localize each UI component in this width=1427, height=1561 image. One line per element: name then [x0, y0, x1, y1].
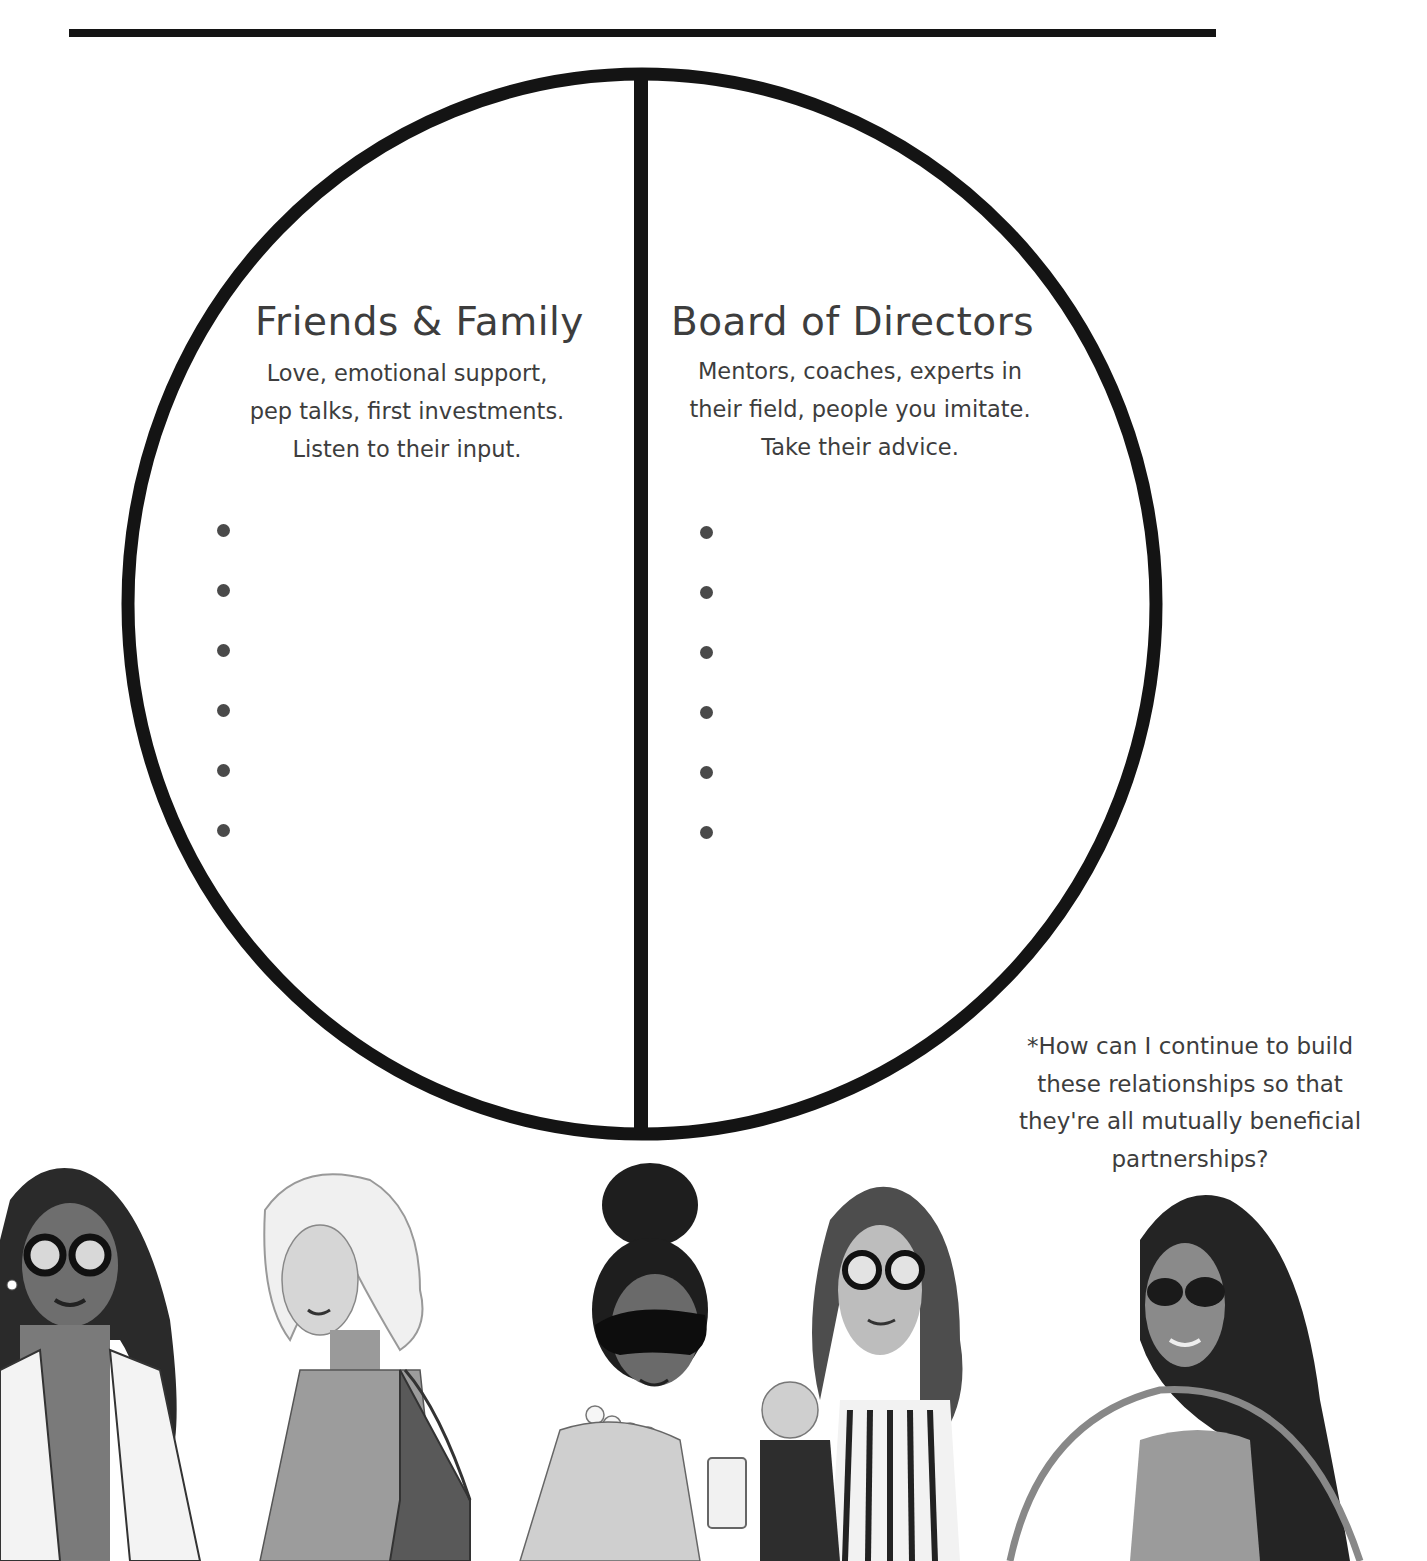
friends-family-entry-1[interactable] [245, 517, 619, 545]
friends-family-entry-4[interactable] [245, 697, 619, 725]
woman-5-figure [1010, 1195, 1360, 1561]
friends-family-entry-5[interactable] [245, 757, 619, 785]
board-of-directors-entry-2[interactable] [728, 579, 1112, 607]
description-line: Love, emotional support, [222, 354, 592, 392]
friends-family-entry-6[interactable] [245, 817, 619, 845]
section-description-board-of-directors: Mentors, coaches, experts in their field… [662, 352, 1058, 466]
section-description-friends-family: Love, emotional support, pep talks, firs… [222, 354, 592, 468]
footnote-line: *How can I continue to build [980, 1028, 1400, 1066]
circle-diagram [0, 0, 1427, 1160]
woman-4-figure [708, 1187, 963, 1561]
section-title-board-of-directors: Board of Directors [671, 302, 1034, 341]
description-line: Take their advice. [662, 428, 1058, 466]
bullet-point [217, 764, 230, 777]
description-line: Mentors, coaches, experts in [662, 352, 1058, 390]
woman-1-figure [0, 1168, 200, 1561]
section-title-friends-family: Friends & Family [255, 302, 584, 341]
woman-2-figure [260, 1174, 470, 1561]
board-of-directors-entry-4[interactable] [728, 699, 1112, 727]
bullet-point [700, 586, 713, 599]
bullet-point [217, 704, 230, 717]
description-line: Listen to their input. [222, 430, 592, 468]
board-of-directors-entry-6[interactable] [728, 819, 1112, 847]
bullet-point [217, 524, 230, 537]
woman-3-figure [520, 1163, 708, 1561]
board-of-directors-entry-3[interactable] [728, 639, 1112, 667]
board-of-directors-entry-1[interactable] [728, 519, 1112, 547]
footnote-line: these relationships so that [980, 1066, 1400, 1104]
friends-family-entry-3[interactable] [245, 637, 619, 665]
women-illustration [0, 1140, 1427, 1561]
board-of-directors-entry-5[interactable] [728, 759, 1112, 787]
bullet-point [700, 826, 713, 839]
bullet-point [700, 766, 713, 779]
bullet-point [700, 646, 713, 659]
bullet-point [217, 824, 230, 837]
bullet-point [700, 706, 713, 719]
bullet-point [217, 584, 230, 597]
friends-family-entry-2[interactable] [245, 577, 619, 605]
description-line: pep talks, first investments. [222, 392, 592, 430]
footnote-line: they're all mutually beneficial [980, 1103, 1400, 1141]
bullet-point [217, 644, 230, 657]
bullet-point [700, 526, 713, 539]
description-line: their field, people you imitate. [662, 390, 1058, 428]
